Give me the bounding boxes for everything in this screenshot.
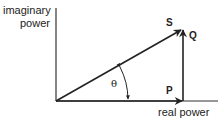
- y-axis-label-line1: imaginary: [3, 4, 51, 16]
- s-vector-arrow: [56, 30, 181, 101]
- theta-angle-arc: [120, 67, 128, 99]
- y-axis-label-line2: power: [20, 17, 50, 29]
- theta-label: θ: [111, 78, 117, 90]
- x-axis-label: real power: [158, 106, 209, 118]
- q-vector-label: Q: [189, 30, 197, 42]
- s-vector-label: S: [166, 17, 173, 29]
- p-vector-label: P: [166, 85, 173, 97]
